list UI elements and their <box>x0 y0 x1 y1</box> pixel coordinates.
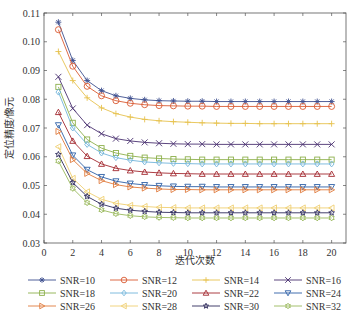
plus-icon <box>203 277 209 283</box>
series-snr-30 <box>56 151 335 215</box>
legend-item: SNR=16 <box>274 275 341 286</box>
series-line <box>58 52 331 124</box>
series-snr-10 <box>55 19 334 104</box>
axes: 024681012141618200.030.040.050.060.070.0… <box>23 8 347 259</box>
legend-label: SNR=12 <box>142 275 177 286</box>
legend-label: SNR=28 <box>142 301 177 312</box>
x-axis-label: 迭代次数 <box>175 254 215 266</box>
y-tick-label: 0.11 <box>23 8 40 19</box>
series-line <box>58 77 331 145</box>
x-marker-icon <box>55 74 334 148</box>
star-marker-icon <box>56 151 335 215</box>
legend-label: SNR=20 <box>142 288 177 299</box>
x-tick-label: 0 <box>42 247 47 258</box>
triangle-up-marker-icon <box>55 109 334 176</box>
legend-item: SNR=30 <box>192 301 259 312</box>
series-snr-20 <box>56 89 334 167</box>
legend-label: SNR=26 <box>60 301 95 312</box>
y-tick-label: 0.09 <box>23 65 41 76</box>
legend-label: SNR=24 <box>306 288 341 299</box>
series-snr-24 <box>55 123 334 190</box>
triangle-left-marker-icon <box>55 144 334 211</box>
series-layer <box>55 19 334 221</box>
legend-label: SNR=18 <box>60 288 95 299</box>
series-line <box>58 30 331 107</box>
legend-item: SNR=26 <box>28 301 95 312</box>
legend-item: SNR=10 <box>28 275 95 286</box>
legend-item: SNR=14 <box>192 275 259 286</box>
triangle-right-marker-icon <box>56 128 335 192</box>
legend-item: SNR=20 <box>110 288 177 299</box>
legend-item: SNR=22 <box>192 288 259 299</box>
series-snr-22 <box>55 109 334 176</box>
legend-label: SNR=32 <box>306 301 341 312</box>
y-tick-label: 0.08 <box>23 94 41 105</box>
legend-item: SNR=18 <box>28 288 95 299</box>
y-tick-label: 0.05 <box>23 180 41 191</box>
legend-label: SNR=22 <box>224 288 259 299</box>
x-tick-label: 8 <box>157 247 162 258</box>
asterisk-marker-icon <box>55 19 334 104</box>
series-snr-12 <box>55 27 334 110</box>
asterisk-icon <box>39 277 45 283</box>
legend-label: SNR=10 <box>60 275 95 286</box>
triangle-down-marker-icon <box>55 123 334 190</box>
legend-item: SNR=12 <box>110 275 177 286</box>
legend: SNR=10SNR=12SNR=14SNR=16SNR=18SNR=20SNR=… <box>28 275 341 312</box>
legend-item: SNR=24 <box>274 288 341 299</box>
legend-item: SNR=32 <box>274 301 341 312</box>
legend-item: SNR=28 <box>110 301 177 312</box>
circle-marker-icon <box>55 27 334 110</box>
x-tick-label: 20 <box>327 247 337 258</box>
legend-label: SNR=14 <box>224 275 259 286</box>
line-chart: 024681012141618200.030.040.050.060.070.0… <box>0 0 356 320</box>
series-line <box>58 22 331 101</box>
diamond-marker-icon <box>56 89 334 167</box>
y-tick-label: 0.03 <box>23 238 41 249</box>
x-tick-label: 14 <box>240 247 250 258</box>
y-tick-label: 0.07 <box>23 123 41 134</box>
y-tick-label: 0.04 <box>23 209 41 220</box>
series-snr-16 <box>55 74 334 148</box>
x-tick-label: 16 <box>269 247 279 258</box>
x-tick-label: 2 <box>70 247 75 258</box>
x-tick-label: 6 <box>128 247 133 258</box>
x-tick-label: 4 <box>99 247 104 258</box>
legend-label: SNR=30 <box>224 301 259 312</box>
x-tick-label: 18 <box>298 247 308 258</box>
legend-label: SNR=16 <box>306 275 341 286</box>
y-tick-label: 0.06 <box>23 151 41 162</box>
series-snr-28 <box>55 144 334 211</box>
y-axis-label: 定位精度/像元 <box>3 97 15 160</box>
y-tick-label: 0.10 <box>23 36 41 47</box>
series-snr-26 <box>56 128 335 192</box>
